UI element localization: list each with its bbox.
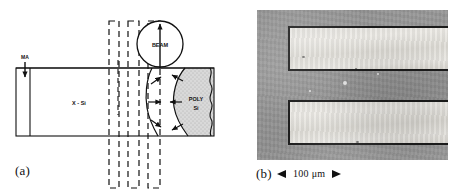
micrograph-image — [257, 10, 448, 160]
micrograph-speck — [309, 90, 311, 92]
figure-root: BEAM X - Si POLY Si MA (a) 100 μm (b) — [0, 0, 459, 195]
micrograph-speck — [302, 56, 305, 58]
panel-b-caption: (b) — [256, 166, 272, 182]
panel-a-schematic: BEAM X - Si POLY Si MA (a) — [0, 0, 232, 195]
arrow-left-icon — [277, 170, 286, 178]
poly-label-line2: Si — [193, 105, 199, 111]
substrate-label: X - Si — [72, 100, 86, 106]
aperture-guide-1 — [109, 21, 119, 188]
micrograph-stripe-bottom — [288, 100, 448, 145]
panel-a-caption: (a) — [15, 163, 30, 179]
poly-label-line1: POLY — [189, 96, 204, 102]
incoming-label: MA — [21, 54, 29, 60]
micrograph-speck — [356, 141, 359, 143]
micrograph-speck — [343, 81, 347, 85]
micrograph-speck — [377, 73, 379, 75]
scale-bar-label: 100 μm — [293, 168, 325, 179]
arrow-right-icon — [332, 170, 341, 178]
micrograph-speck — [355, 68, 357, 70]
panel-b-micrograph: 100 μm (b) — [232, 0, 459, 195]
micrograph-speck — [329, 69, 331, 71]
scale-bar: 100 μm — [277, 168, 341, 179]
micrograph-stripe-top — [288, 26, 448, 71]
schematic-svg: BEAM X - Si POLY Si MA — [0, 0, 232, 195]
beam-label: BEAM — [152, 42, 169, 48]
